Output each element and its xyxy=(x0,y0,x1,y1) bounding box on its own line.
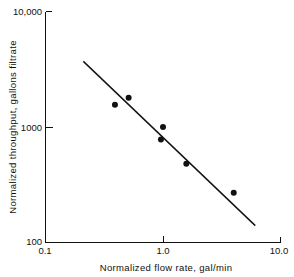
data-point xyxy=(112,102,118,108)
trend-line xyxy=(83,61,255,225)
y-axis-title: Normalized throughput, gallons filtrate xyxy=(7,40,18,214)
data-point xyxy=(231,190,237,196)
log-log-scatter-chart: 10,000 1000 100 0.1 1.0 10.0 Normalized … xyxy=(0,0,294,277)
data-point xyxy=(126,95,132,101)
x-axis-title: Normalized flow rate, gal/min xyxy=(100,262,233,273)
data-point xyxy=(160,124,166,130)
x-tick-label-10-0: 10.0 xyxy=(270,245,289,256)
data-point-group xyxy=(112,95,237,196)
plot-data-layer xyxy=(83,61,255,225)
x-tick-label-0-1: 0.1 xyxy=(38,245,51,256)
y-tick-label-1000: 1000 xyxy=(21,122,42,133)
x-tick-label-1-0: 1.0 xyxy=(156,245,169,256)
y-tick-label-10000: 10,000 xyxy=(13,6,42,17)
